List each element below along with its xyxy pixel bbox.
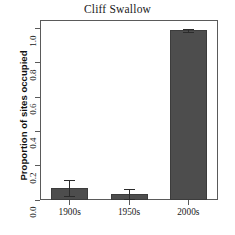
error-bar-cap — [64, 196, 75, 197]
error-bar-cap — [124, 199, 135, 200]
y-axis-tick-label: 1.0 — [28, 28, 38, 54]
y-axis-tick-label: 0.4 — [28, 130, 38, 156]
y-axis-tick-label: 0.0 — [28, 199, 38, 225]
chart-title: Cliff Swallow — [0, 3, 235, 15]
x-axis-tick-mark — [129, 200, 130, 205]
error-bar-cap — [124, 189, 135, 190]
chart-figure: Cliff Swallow Proportion of sites occupi… — [0, 0, 235, 235]
error-bar-stem — [129, 189, 130, 200]
x-axis-tick-label: 1950s — [103, 207, 155, 217]
y-axis-title: Proportion of sites occupied — [18, 36, 29, 196]
x-axis-tick-mark — [188, 200, 189, 205]
x-axis-tick-label: 2000s — [162, 207, 214, 217]
y-axis-tick-label: 0.8 — [28, 62, 38, 88]
error-bar-stem — [69, 180, 70, 195]
error-bar-cap — [183, 29, 194, 30]
x-axis-tick-label: 1900s — [44, 207, 96, 217]
bar — [170, 30, 207, 200]
y-axis-tick-label: 0.2 — [28, 165, 38, 191]
error-bar-cap — [64, 180, 75, 181]
y-axis-tick-label: 0.6 — [28, 96, 38, 122]
x-axis-tick-mark — [69, 200, 70, 205]
error-bar-cap — [183, 32, 194, 33]
